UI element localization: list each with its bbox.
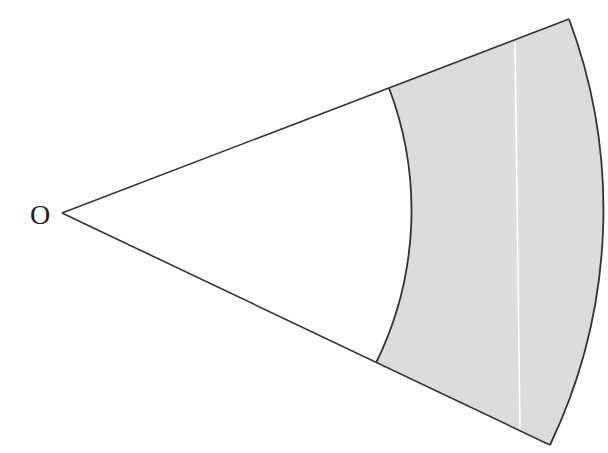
sector-diagram: O: [0, 0, 608, 453]
center-label-o: O: [30, 199, 50, 230]
